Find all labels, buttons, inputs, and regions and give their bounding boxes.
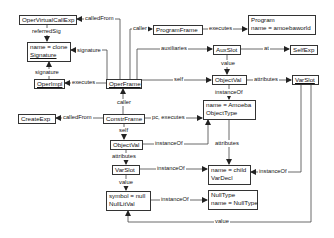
node-create-exp[interactable]: CreateExp [18, 114, 56, 124]
node-text: ObjectVal [113, 141, 140, 149]
node-text: OperVirtualCallExp [22, 16, 74, 24]
node-null-lit-val[interactable]: symbol = null NullLitVal [106, 191, 151, 211]
label-caller-1: caller [132, 25, 148, 32]
node-attribute-text: name = amoebaworld [251, 24, 313, 32]
label-instance-of-1: instanceOf [214, 89, 244, 96]
edge-signature-1 [71, 50, 107, 79]
edge-instanceof-4 [251, 85, 301, 172]
label-value-3: value [214, 218, 230, 225]
label-self-1: self [173, 76, 184, 83]
node-var-slot-top[interactable]: VarSlot [292, 75, 319, 85]
node-text: OperFrame [109, 80, 139, 88]
label-value-2: value [118, 179, 134, 186]
node-attribute-text: name = NullType [211, 199, 255, 207]
node-program[interactable]: Program name = amoebaworld [248, 15, 316, 35]
node-type-text: Signature [30, 51, 68, 59]
node-object-val-top[interactable]: ObjectVal [212, 75, 247, 85]
label-attributes-3: attributes [214, 140, 240, 147]
label-called-from-1: calledFrom [84, 15, 115, 22]
node-oper-impl[interactable]: OperImpl [34, 79, 65, 89]
label-executes-2: executes [208, 25, 233, 32]
node-constr-frame[interactable]: ConstrFrame [103, 114, 145, 124]
node-self-exp[interactable]: SelfExp [290, 45, 318, 55]
node-program-frame[interactable]: ProgramFrame [153, 25, 203, 35]
label-referred-sig: referredSig [31, 28, 62, 35]
label-pc-executes: pc, executes [151, 114, 186, 121]
label-value-1: value [220, 60, 236, 67]
node-text: VarSlot [115, 166, 137, 174]
node-signature[interactable]: name = clone Signature [27, 42, 71, 62]
node-type-text: Program [251, 16, 313, 24]
node-oper-virtual-call-exp[interactable]: OperVirtualCallExp [19, 15, 77, 25]
node-text: CreateExp [21, 115, 53, 123]
label-caller-2: caller [116, 99, 132, 106]
node-var-slot-mid[interactable]: VarSlot [112, 165, 140, 175]
label-called-from-2: calledFrom [62, 114, 93, 121]
node-text: ConstrFrame [106, 115, 142, 123]
node-text: ProgramFrame [156, 26, 200, 34]
node-type-text: VarDecl [211, 174, 248, 182]
node-attribute-text: name = child [211, 166, 248, 174]
label-instance-of-5: instanceOf [160, 196, 190, 203]
node-text: SelfExp [293, 46, 315, 54]
label-instance-of-3: instanceOf [156, 165, 186, 172]
node-attribute-text: name = clone [30, 43, 68, 51]
node-type-text: ObjectType [206, 109, 253, 117]
node-text: AuxSlot [216, 46, 238, 54]
label-at: at [263, 45, 270, 52]
node-aux-slot[interactable]: AuxSlot [213, 45, 241, 55]
node-var-decl[interactable]: name = child VarDecl [208, 165, 251, 185]
node-attribute-text: symbol = null [109, 192, 148, 200]
label-signature-1: signature [76, 47, 102, 54]
label-self-2: self [118, 127, 129, 134]
label-instance-of-2: instanceOf [154, 140, 184, 147]
label-attributes-1: attributes [253, 76, 279, 83]
node-object-type[interactable]: name = Amoeba ObjectType [203, 100, 256, 120]
node-text: ObjectVal [215, 76, 244, 84]
node-oper-frame[interactable]: OperFrame [106, 79, 142, 89]
edge-caller-1 [130, 29, 152, 79]
label-instance-of-4: instanceOf [258, 168, 288, 175]
edge-auxiliaries [137, 49, 212, 79]
node-type-text: NullType [211, 191, 255, 199]
node-attribute-text: name = Amoeba [206, 101, 253, 109]
node-object-val-mid[interactable]: ObjectVal [110, 140, 143, 150]
node-text: VarSlot [295, 76, 316, 84]
label-attributes-2: attributes [111, 153, 137, 160]
node-text: OperImpl [37, 80, 62, 88]
label-auxiliaries: auxiliaries [160, 45, 188, 52]
object-diagram: OperVirtualCallExp name = clone Signatur… [0, 0, 334, 238]
label-executes-1: executes [71, 79, 96, 86]
label-signature-2: signature [34, 69, 60, 76]
node-null-type[interactable]: NullType name = NullType [208, 190, 258, 210]
node-type-text: NullLitVal [109, 200, 148, 208]
